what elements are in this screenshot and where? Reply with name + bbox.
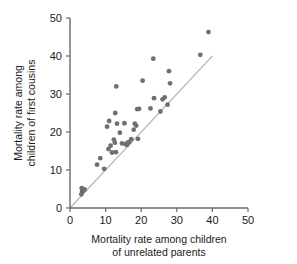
data-point xyxy=(136,136,141,141)
plot-canvas: 01020304050 01020304050 Mortality rate a… xyxy=(0,0,297,264)
y-tick-label: 0 xyxy=(56,202,62,214)
data-points-group xyxy=(79,30,211,197)
data-point xyxy=(115,121,120,126)
data-point xyxy=(105,124,110,129)
y-axis-ticks: 01020304050 xyxy=(50,12,70,214)
data-point xyxy=(165,102,170,107)
x-tick-label: 50 xyxy=(242,214,254,226)
data-point xyxy=(131,127,136,132)
data-point xyxy=(112,140,117,145)
data-point xyxy=(114,150,119,155)
y-axis-title: Mortality rate among children of first c… xyxy=(12,60,37,167)
data-point xyxy=(206,30,211,35)
data-point xyxy=(113,111,118,116)
x-axis-ticks: 01020304050 xyxy=(67,208,254,226)
y-tick-label: 20 xyxy=(50,126,62,138)
data-point xyxy=(167,69,172,74)
x-axis-title: Mortality rate among children of unrelat… xyxy=(91,233,227,258)
data-point xyxy=(152,96,157,101)
data-point xyxy=(134,123,139,128)
data-point xyxy=(114,84,119,89)
data-point xyxy=(107,119,112,124)
data-point xyxy=(158,109,163,114)
data-point xyxy=(140,78,145,83)
data-point xyxy=(148,106,153,111)
y-axis-title-line2: children of first cousins xyxy=(25,60,37,167)
data-point xyxy=(117,130,122,135)
y-tick-label: 30 xyxy=(50,88,62,100)
x-tick-label: 10 xyxy=(99,214,111,226)
data-point xyxy=(108,143,113,148)
data-point xyxy=(162,95,167,100)
data-point xyxy=(198,52,203,57)
data-point xyxy=(102,166,107,171)
x-tick-label: 30 xyxy=(171,214,183,226)
y-tick-label: 10 xyxy=(50,164,62,176)
data-point xyxy=(137,106,142,111)
x-tick-label: 40 xyxy=(206,214,218,226)
data-point xyxy=(151,56,156,61)
data-point xyxy=(98,156,103,161)
data-point xyxy=(122,121,127,126)
data-point xyxy=(168,81,173,86)
x-tick-label: 0 xyxy=(67,214,73,226)
x-tick-label: 20 xyxy=(135,214,147,226)
x-axis-title-line2: of unrelated parents xyxy=(112,246,205,258)
data-point xyxy=(129,137,134,142)
y-tick-label: 40 xyxy=(50,50,62,62)
x-axis-title-line1: Mortality rate among children xyxy=(91,233,227,245)
data-point xyxy=(95,162,100,167)
y-axis-title-line1: Mortality rate among xyxy=(12,65,24,161)
scatter-plot-figure: 01020304050 01020304050 Mortality rate a… xyxy=(0,0,297,264)
data-point xyxy=(79,186,84,191)
y-tick-label: 50 xyxy=(50,12,62,24)
